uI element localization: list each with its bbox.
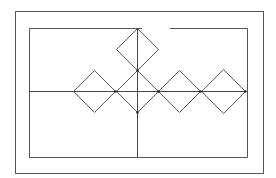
diamond-chain — [74, 29, 246, 114]
junction-node — [157, 90, 159, 92]
inner-frame — [30, 29, 248, 158]
junction-node — [136, 69, 138, 71]
junction-node — [199, 90, 201, 92]
junction-node — [244, 90, 246, 92]
diagram-canvas — [0, 0, 276, 178]
junction-node — [136, 111, 138, 113]
diagram-svg — [0, 0, 276, 178]
outer-frame — [16, 12, 264, 174]
junction-node — [114, 90, 116, 92]
